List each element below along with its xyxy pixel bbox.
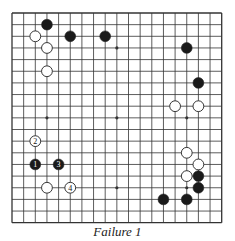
white-stone: 4 — [65, 182, 76, 193]
go-diagram: 2134 Failure 1 — [0, 0, 235, 241]
star-point-icon — [115, 46, 118, 49]
white-stone — [30, 31, 41, 42]
move-number-label: 1 — [33, 160, 37, 169]
black-stone — [193, 78, 204, 89]
move-number-label: 2 — [33, 137, 37, 146]
star-point-icon — [185, 116, 188, 119]
star-point-icon — [115, 186, 118, 189]
move-number-label: 3 — [57, 160, 61, 169]
white-stone — [193, 159, 204, 170]
star-point-icon — [185, 186, 188, 189]
black-stone: 3 — [53, 159, 64, 170]
black-stone — [181, 43, 192, 54]
star-point-icon — [115, 116, 118, 119]
white-stone — [181, 147, 192, 158]
white-stone — [181, 171, 192, 182]
black-stone — [181, 194, 192, 205]
diagram-caption: Failure 1 — [0, 224, 235, 240]
black-stone — [193, 182, 204, 193]
star-point-icon — [45, 116, 48, 119]
black-stone — [158, 194, 169, 205]
white-stone — [193, 101, 204, 112]
white-stone — [42, 43, 53, 54]
white-stone — [170, 101, 181, 112]
black-stone: 1 — [30, 159, 41, 170]
go-board: 2134 — [0, 0, 235, 241]
white-stone: 2 — [30, 136, 41, 147]
white-stone — [42, 66, 53, 77]
move-number-label: 4 — [68, 184, 72, 193]
black-stone — [65, 31, 76, 42]
black-stone — [42, 19, 53, 30]
black-stone — [100, 31, 111, 42]
white-stone — [42, 182, 53, 193]
black-stone — [193, 171, 204, 182]
